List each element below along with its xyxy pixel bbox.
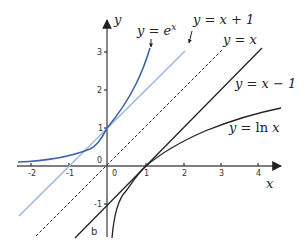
x-tick-1: 1	[144, 169, 149, 178]
label-ln: y = ln x	[228, 120, 280, 135]
corner-label: b	[91, 226, 97, 237]
label-x-minus-1: y = x − 1	[234, 76, 296, 91]
y-tick-1: 1	[98, 124, 103, 133]
x-tick-2: 2	[182, 169, 187, 178]
x-tick-neg2: -2	[28, 169, 36, 178]
svg-text:y = ex: y = ex	[136, 22, 176, 38]
curve-x-plus-1	[19, 51, 185, 216]
x-tick-4: 4	[256, 169, 261, 178]
x-tick-0: 0	[112, 169, 117, 178]
x-tick-3: 3	[219, 169, 224, 178]
x-axis: -2 -1 0 1 2 3 4 x	[17, 163, 281, 191]
svg-text:y = x + 1: y = x + 1	[192, 12, 254, 27]
y-axis-label: y	[113, 12, 122, 27]
x-axis-label: x	[266, 176, 274, 191]
y-tick-2: 2	[97, 86, 102, 95]
label-identity: y = x	[222, 32, 258, 47]
y-tick-neg1: -1	[94, 200, 102, 209]
curve-x-minus-1	[75, 48, 262, 238]
x-tick-neg1: -1	[66, 169, 74, 178]
origin-label: 0	[97, 156, 102, 165]
y-axis: 3 2 1 0 -1 y	[94, 12, 122, 237]
y-tick-3: 3	[97, 48, 102, 57]
label-exp: y = ex	[136, 22, 176, 47]
curve-identity	[36, 50, 222, 236]
function-graph: -2 -1 0 1 2 3 4 x 3 2 1 0 -1 y y = ex	[0, 0, 305, 251]
